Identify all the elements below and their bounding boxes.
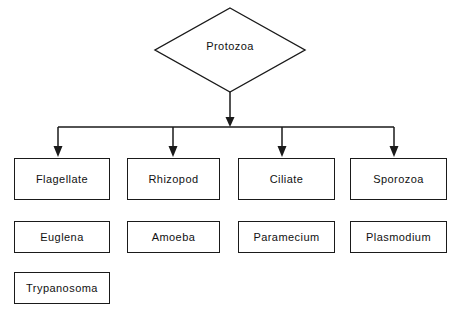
example-node-amoeba[interactable]: Amoeba [127,221,220,253]
branch-arrowhead-3 [278,146,287,157]
example-node-trypanosoma[interactable]: Trypanosoma [14,272,110,304]
branch-arrowhead-4 [390,146,399,157]
example-node-label: Trypanosoma [26,282,98,294]
diagram-canvas: Protozoa Flagellate Rhizopod Ciliate Spo… [0,0,458,315]
class-node-label: Ciliate [270,173,304,185]
class-node-label: Rhizopod [148,173,198,185]
example-node-plasmodium[interactable]: Plasmodium [350,221,447,253]
branch-arrowhead-1 [54,146,63,157]
example-node-label: Euglena [40,231,84,243]
class-node-label: Flagellate [36,173,88,185]
example-node-paramecium[interactable]: Paramecium [238,221,335,253]
root-stem-arrowhead [226,117,235,127]
root-node-label: Protozoa [155,40,305,53]
example-node-euglena[interactable]: Euglena [14,221,110,253]
class-node-ciliate[interactable]: Ciliate [238,158,335,200]
example-node-label: Paramecium [253,231,319,243]
branch-arrowhead-2 [169,146,178,157]
example-node-label: Amoeba [152,231,196,243]
example-node-label: Plasmodium [366,231,431,243]
class-node-label: Sporozoa [373,173,424,185]
class-node-flagellate[interactable]: Flagellate [14,158,110,200]
class-node-sporozoa[interactable]: Sporozoa [350,158,447,200]
class-node-rhizopod[interactable]: Rhizopod [127,158,220,200]
